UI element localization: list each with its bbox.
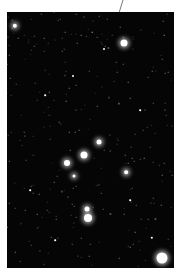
faint-star — [44, 127, 45, 128]
faint-star — [62, 51, 63, 52]
faint-star — [72, 204, 73, 205]
faint-star — [71, 244, 72, 245]
faint-star — [49, 212, 50, 213]
faint-star — [64, 75, 65, 76]
faint-star — [24, 188, 25, 189]
faint-star — [13, 33, 14, 34]
faint-star — [7, 134, 8, 135]
faint-star — [128, 230, 129, 231]
faint-star — [132, 158, 133, 159]
faint-star — [8, 16, 9, 17]
faint-star — [19, 261, 20, 262]
faint-star — [8, 55, 9, 56]
faint-star — [97, 76, 98, 77]
faint-star — [122, 37, 123, 38]
faint-star — [12, 19, 13, 20]
faint-star — [170, 171, 171, 172]
faint-star — [135, 231, 136, 232]
faint-star — [119, 103, 120, 104]
star — [121, 40, 128, 47]
star — [54, 239, 56, 241]
faint-star — [49, 115, 50, 116]
star — [44, 94, 46, 96]
faint-star — [44, 51, 45, 52]
faint-star — [165, 73, 166, 74]
faint-star — [68, 131, 69, 132]
faint-star — [66, 71, 67, 72]
faint-star — [89, 71, 90, 72]
faint-star — [7, 227, 8, 228]
faint-star — [99, 184, 100, 185]
faint-star — [88, 129, 89, 130]
faint-star — [75, 84, 76, 85]
faint-star — [74, 222, 75, 223]
faint-star — [124, 155, 125, 156]
faint-star — [48, 107, 49, 108]
faint-star — [171, 79, 172, 80]
faint-star — [170, 246, 171, 247]
faint-star — [60, 19, 61, 20]
faint-star — [75, 132, 76, 133]
faint-star — [7, 92, 8, 93]
faint-star — [133, 38, 134, 39]
faint-star — [104, 149, 105, 150]
faint-star — [86, 35, 87, 36]
faint-star — [98, 16, 99, 17]
faint-star — [32, 185, 33, 186]
faint-star — [130, 247, 131, 248]
faint-star — [139, 241, 140, 242]
faint-star — [138, 265, 139, 266]
faint-star — [23, 34, 24, 35]
faint-star — [107, 19, 108, 20]
faint-star — [9, 203, 10, 204]
faint-star — [56, 176, 57, 177]
faint-star — [48, 91, 49, 92]
faint-star — [152, 162, 153, 163]
faint-star — [46, 210, 47, 211]
faint-star — [37, 228, 38, 229]
faint-star — [20, 223, 21, 224]
faint-star — [19, 139, 20, 140]
faint-star — [25, 210, 26, 211]
faint-star — [166, 13, 167, 14]
faint-star — [49, 74, 50, 75]
faint-star — [101, 168, 102, 169]
faint-star — [171, 126, 172, 127]
faint-star — [154, 203, 155, 204]
faint-star — [164, 35, 165, 36]
faint-star — [96, 105, 97, 106]
faint-star — [104, 45, 105, 46]
faint-star — [112, 35, 113, 36]
faint-star — [61, 38, 62, 39]
faint-star — [116, 71, 117, 72]
faint-star — [84, 105, 85, 106]
faint-star — [148, 76, 149, 77]
faint-star — [80, 108, 81, 109]
faint-star — [25, 58, 26, 59]
faint-star — [79, 130, 80, 131]
faint-star — [54, 39, 55, 40]
faint-star — [99, 242, 100, 243]
faint-star — [147, 127, 148, 128]
faint-star — [11, 132, 12, 133]
star — [151, 237, 153, 239]
faint-star — [36, 43, 37, 44]
faint-star — [148, 219, 149, 220]
faint-star — [116, 61, 117, 62]
faint-star — [15, 83, 16, 84]
star — [97, 140, 102, 145]
faint-star — [167, 125, 168, 126]
faint-star — [101, 43, 102, 44]
faint-star — [10, 78, 11, 79]
faint-star — [81, 256, 82, 257]
faint-star — [32, 193, 33, 194]
star — [124, 170, 128, 174]
faint-star — [107, 39, 108, 40]
faint-star — [171, 206, 172, 207]
faint-star — [31, 49, 32, 50]
faint-star — [24, 136, 25, 137]
faint-star — [14, 208, 15, 209]
faint-star — [71, 34, 72, 35]
faint-star — [135, 205, 136, 206]
faint-star — [24, 131, 25, 132]
